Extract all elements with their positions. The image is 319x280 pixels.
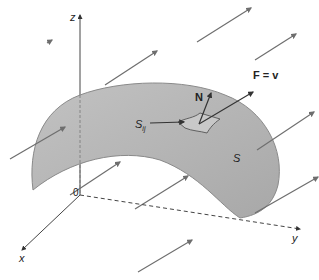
y-axis-label: y [291,232,299,244]
field-label: F = v [253,69,279,81]
x-axis [22,195,80,250]
surface-s [32,83,279,218]
x-axis-label: x [18,252,25,264]
normal-label: N [195,91,203,103]
surface-label: S [233,152,241,164]
flux-diagram: z x y 0 N F = v S Sij [0,0,319,280]
z-axis-label: z [69,11,76,23]
origin-label: 0 [73,187,79,198]
